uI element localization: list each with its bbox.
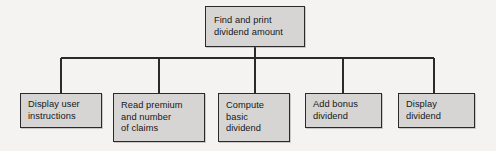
node-child-4-line-2: dividend	[406, 111, 469, 123]
node-child-1-line-3: of claims	[121, 123, 199, 135]
node-child-0-line-1: Display user	[28, 99, 96, 111]
node-root[interactable]: Find and print dividend amount	[205, 6, 305, 47]
node-child-2-line-2: basic	[226, 112, 284, 124]
node-display-dividend[interactable]: Display dividend	[398, 93, 475, 128]
node-child-3-line-2: dividend	[313, 111, 376, 123]
node-root-line-1: Find and print	[214, 15, 299, 27]
node-display-user-instructions[interactable]: Display user instructions	[20, 93, 102, 128]
node-child-0-line-2: instructions	[28, 111, 96, 123]
node-root-line-2: dividend amount	[214, 27, 299, 39]
node-child-3-line-1: Add bonus	[313, 99, 376, 111]
structure-chart-canvas: Find and print dividend amount Display u…	[0, 0, 496, 151]
node-child-2-line-3: dividend	[226, 123, 284, 135]
node-child-2-line-1: Compute	[226, 100, 284, 112]
node-read-premium-and-number-of-claims[interactable]: Read premium and number of claims	[113, 93, 205, 142]
node-compute-basic-dividend[interactable]: Compute basic dividend	[218, 93, 290, 142]
node-add-bonus-dividend[interactable]: Add bonus dividend	[305, 93, 382, 128]
node-child-1-line-2: and number	[121, 112, 199, 124]
node-child-1-line-1: Read premium	[121, 100, 199, 112]
node-child-4-line-1: Display	[406, 99, 469, 111]
